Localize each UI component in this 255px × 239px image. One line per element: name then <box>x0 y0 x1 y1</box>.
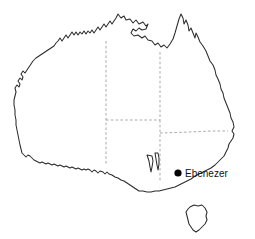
ebenezer-marker-label: Ebenezer <box>185 168 228 179</box>
ebenezer-marker-dot[interactable] <box>174 169 181 176</box>
tasmania-outline <box>186 205 207 232</box>
map-canvas: Ebenezer <box>0 0 255 239</box>
mainland-australia-outline <box>14 14 234 192</box>
australia-locator-map: Ebenezer <box>0 0 255 239</box>
